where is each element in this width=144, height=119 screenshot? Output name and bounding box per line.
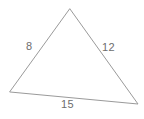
side-label-bottom: 15 xyxy=(61,99,74,110)
side-label-left: 8 xyxy=(26,41,33,52)
side-label-right: 12 xyxy=(102,42,115,53)
triangle-outline xyxy=(10,9,138,104)
triangle-diagram: 8 12 15 xyxy=(0,0,144,119)
